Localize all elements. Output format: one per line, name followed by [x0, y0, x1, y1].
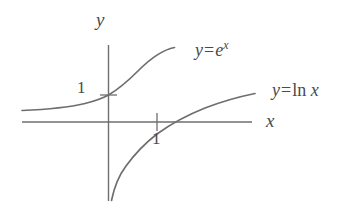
math-figure: y x y=ex y=ln x 1 1: [0, 0, 356, 215]
exponential-label-lhs: y: [195, 40, 203, 60]
graph-canvas: [0, 0, 356, 215]
exponential-label-equals: =: [203, 40, 215, 60]
y-axis-label: y: [96, 10, 104, 29]
exponential-curve: [22, 48, 175, 111]
logarithm-label-lhs: y: [272, 80, 280, 100]
x-axis-label: x: [266, 111, 274, 130]
logarithm-curve: [112, 94, 256, 201]
exponential-label-exponent: x: [223, 38, 228, 52]
logarithm-label-argument: x: [306, 80, 319, 100]
y-tick-label-1: 1: [77, 79, 86, 96]
x-tick-label-1: 1: [152, 130, 161, 147]
exponential-curve-label: y=ex: [195, 40, 228, 59]
logarithm-curve-label: y=ln x: [272, 81, 319, 99]
logarithm-label-function: ln: [292, 80, 306, 100]
exponential-label-base: e: [215, 40, 223, 60]
logarithm-label-equals: =: [280, 80, 292, 100]
